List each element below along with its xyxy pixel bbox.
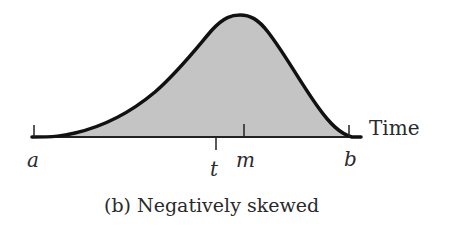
- figure-caption: (b) Negatively skewed: [104, 196, 319, 215]
- point-a-label: a: [27, 150, 39, 170]
- skewed-distribution-figure: Time a t m b (b) Negatively skewed: [0, 0, 470, 239]
- time-axis-label: Time: [369, 118, 420, 138]
- point-m-label: m: [236, 150, 255, 170]
- point-b-label: b: [344, 149, 357, 169]
- point-t-label: t: [210, 159, 218, 179]
- distribution-area: [34, 15, 352, 137]
